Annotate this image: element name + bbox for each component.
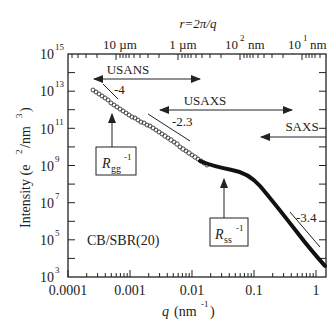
svg-text:3: 3	[14, 113, 24, 118]
svg-text:nm: nm	[248, 37, 265, 52]
top-axis-title: r=2π/q	[180, 16, 217, 31]
svg-text:-1: -1	[124, 152, 132, 162]
svg-text:10: 10	[40, 122, 54, 137]
svg-text:Intensity (e: Intensity (e	[18, 165, 34, 228]
svg-text:10: 10	[40, 159, 54, 174]
svg-text:3: 3	[55, 265, 60, 275]
svg-text:10: 10	[40, 196, 54, 211]
svg-text:10: 10	[288, 37, 301, 52]
svg-text:0.01: 0.01	[180, 283, 205, 298]
svg-text:ss: ss	[224, 234, 232, 245]
y-axis-label: Intensity (e 2 /nm 3 )	[14, 107, 34, 228]
svg-text:10: 10	[40, 233, 54, 248]
saxs-plot: r=2π/q 10 µm 1 µm 10 2 nm 10 1 nm 103 10…	[0, 0, 336, 326]
slope-label-4: -4	[114, 82, 125, 97]
svg-text:10: 10	[40, 47, 54, 62]
svg-text:1: 1	[303, 33, 308, 43]
svg-text:-1: -1	[201, 299, 209, 309]
svg-text:2: 2	[14, 150, 24, 155]
top-tick-100nm: 10 2 nm	[225, 33, 265, 52]
svg-text:15: 15	[55, 42, 65, 52]
svg-text:-1: -1	[236, 223, 244, 233]
svg-text:R: R	[101, 156, 111, 171]
x-tick-labels: 0.0001 0.001 0.01 0.1 1	[49, 283, 320, 298]
svg-text:10: 10	[225, 37, 238, 52]
top-tick-10nm: 10 1 nm	[288, 33, 327, 52]
svg-text:10: 10	[40, 84, 54, 99]
svg-text:(nm: (nm	[174, 304, 197, 320]
svg-text:R: R	[214, 227, 224, 242]
usaxs-label: USAXS	[184, 93, 227, 108]
svg-text:gg: gg	[111, 163, 121, 174]
top-tick-1um: 1 µm	[169, 37, 196, 52]
svg-text:/nm: /nm	[18, 126, 33, 148]
svg-text:0.001: 0.001	[114, 283, 146, 298]
slope-label-3-4: -3.4	[296, 210, 317, 225]
saxs-label: SAXS	[285, 119, 318, 134]
svg-text:7: 7	[55, 191, 60, 201]
svg-text:11: 11	[55, 117, 64, 127]
svg-text:q: q	[162, 304, 169, 319]
top-tick-10um: 10 µm	[103, 37, 137, 52]
x-axis-label: q (nm -1 )	[162, 299, 215, 320]
svg-text:9: 9	[55, 154, 60, 164]
y-tick-labels: 103 105 107 109 1011 1013 1015	[40, 42, 65, 285]
svg-text:5: 5	[55, 228, 60, 238]
svg-text:13: 13	[55, 79, 65, 89]
svg-text:0.0001: 0.0001	[49, 283, 88, 298]
svg-text:nm: nm	[310, 37, 327, 52]
svg-text:0.1: 0.1	[245, 283, 263, 298]
svg-text:2: 2	[240, 33, 245, 43]
svg-text:): )	[18, 107, 34, 112]
usans-label: USANS	[107, 62, 150, 77]
slope-label-2-3: -2.3	[172, 114, 193, 129]
svg-text:1: 1	[313, 283, 320, 298]
svg-text:): )	[210, 304, 215, 320]
sample-label: CB/SBR(20)	[87, 233, 160, 249]
